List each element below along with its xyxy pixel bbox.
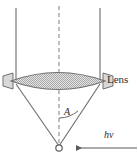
photon-energy-label: hν — [104, 130, 113, 140]
converging-ray-group — [16, 84, 100, 146]
focal-point-icon — [56, 145, 62, 151]
lens-body — [11, 73, 105, 90]
angle-label: A — [64, 107, 70, 117]
converging-ray-left — [16, 84, 59, 146]
optics-lens-diagram: Lens A hν — [0, 0, 138, 164]
lens-label: Lens — [107, 74, 128, 85]
incoming-ray-group — [16, 8, 100, 80]
